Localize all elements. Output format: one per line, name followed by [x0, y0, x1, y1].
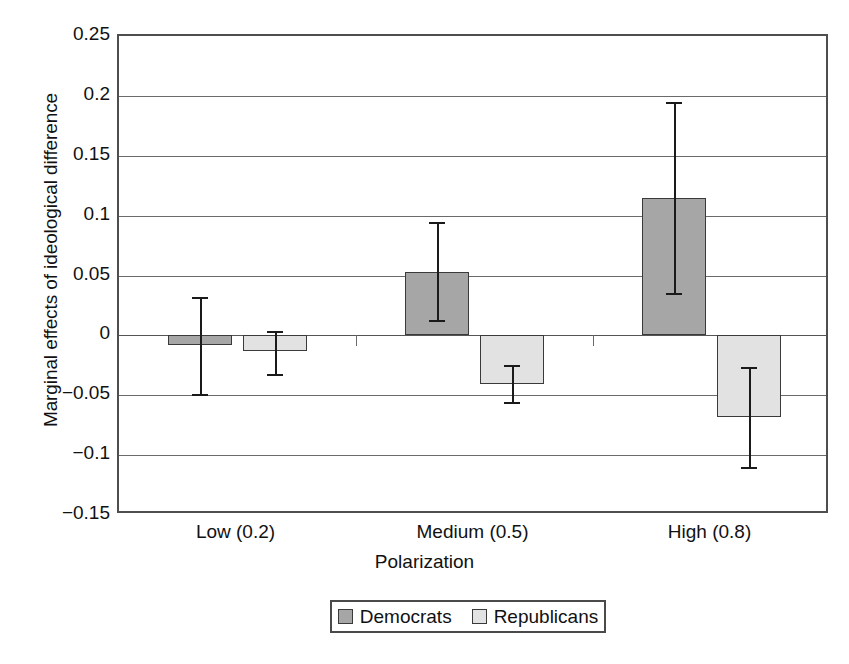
gridline	[119, 276, 826, 277]
error-bar-line	[437, 222, 439, 320]
error-bar-line	[512, 365, 514, 402]
y-axis-tick-label: 0.05	[48, 263, 110, 285]
x-axis-tick-label: Medium (0.5)	[417, 521, 529, 543]
error-bar-cap-upper	[504, 365, 520, 367]
error-bar-cap-upper	[267, 331, 283, 333]
error-bar-cap-lower	[504, 402, 520, 404]
y-axis-tick-label: 0.1	[48, 203, 110, 225]
y-axis-tick-label: 0.25	[48, 23, 110, 45]
error-bar-line	[200, 297, 202, 394]
error-bar-cap-lower	[267, 374, 283, 376]
error-bar-line	[749, 367, 751, 468]
legend-label: Republicans	[494, 606, 599, 628]
legend-label: Democrats	[360, 606, 452, 628]
y-axis-tick-label: 0.2	[48, 83, 110, 105]
y-axis-tick-label: 0.15	[48, 143, 110, 165]
plot-area	[117, 34, 828, 513]
legend-swatch-dem	[338, 609, 353, 624]
gridline	[119, 455, 826, 456]
x-axis-tick-mark	[356, 335, 357, 346]
error-bar-cap-lower	[192, 394, 208, 396]
error-bar-cap-lower	[429, 320, 445, 322]
gridline	[119, 96, 826, 97]
y-axis-tick-label: −0.1	[48, 442, 110, 464]
error-bar-cap-upper	[666, 102, 682, 104]
chart-figure: Marginal effects of ideological differen…	[0, 0, 849, 664]
error-bar-cap-upper	[429, 222, 445, 224]
error-bar-line	[275, 331, 277, 374]
error-bar-cap-upper	[741, 367, 757, 369]
gridline	[119, 156, 826, 157]
x-axis-tick-label: Low (0.2)	[196, 521, 275, 543]
y-axis-tick-label: −0.15	[48, 502, 110, 524]
error-bar-line	[674, 102, 676, 294]
x-axis-title: Polarization	[0, 551, 849, 573]
y-axis-tick-label: −0.05	[48, 382, 110, 404]
x-axis-tick-mark	[593, 335, 594, 346]
legend-entry-democrats: Democrats	[338, 606, 452, 628]
error-bar-cap-lower	[741, 467, 757, 469]
legend-entry-republicans: Republicans	[472, 606, 599, 628]
chart-legend: DemocratsRepublicans	[330, 600, 606, 633]
y-axis-tick-label: 0	[48, 322, 110, 344]
legend-swatch-rep	[472, 609, 487, 624]
error-bar-cap-upper	[192, 297, 208, 299]
gridline	[119, 216, 826, 217]
x-axis-tick-label: High (0.8)	[668, 521, 751, 543]
error-bar-cap-lower	[666, 293, 682, 295]
